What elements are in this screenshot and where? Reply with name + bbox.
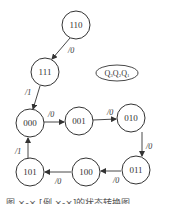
edge-001-010: /0 bbox=[93, 108, 116, 120]
edge-label: /0 bbox=[54, 177, 61, 186]
state-label: 011 bbox=[129, 165, 142, 175]
state-label: 100 bbox=[79, 167, 93, 177]
state-label: 101 bbox=[23, 167, 37, 177]
edge-label: /0 bbox=[106, 108, 113, 117]
state-label: 110 bbox=[69, 20, 83, 30]
figure-caption: 图 ×-× [例 ×-×]的状态转换图 bbox=[6, 197, 130, 204]
state-node-000: 000 bbox=[16, 109, 44, 137]
state-label: 111 bbox=[39, 67, 52, 77]
state-node-101: 101 bbox=[16, 158, 44, 186]
state-node-111: 111 bbox=[31, 58, 59, 86]
edge-011-100: /0 bbox=[101, 171, 121, 185]
edge-000-001: /0 bbox=[44, 110, 64, 122]
state-node-011: 011 bbox=[122, 156, 150, 184]
state-diagram: /0 /1 /0 /0 /0 /0 /0 /1 110 111 000 bbox=[0, 0, 173, 204]
edge-label: /1 bbox=[24, 88, 31, 97]
edge-label: /0 bbox=[67, 46, 74, 55]
legend-label: Q3Q2Q1 bbox=[105, 69, 130, 78]
state-node-010: 010 bbox=[117, 104, 145, 132]
state-label: 001 bbox=[72, 116, 86, 126]
state-node-110: 110 bbox=[62, 11, 90, 39]
state-node-001: 001 bbox=[65, 107, 93, 135]
edge-label: /1 bbox=[14, 147, 21, 156]
edge-110-111: /0 bbox=[52, 38, 74, 59]
state-label: 000 bbox=[23, 118, 37, 128]
edge-100-101: /0 bbox=[45, 172, 71, 186]
state-node-100: 100 bbox=[72, 158, 100, 186]
edge-label: /0 bbox=[145, 142, 152, 151]
edge-111-000: /1 bbox=[24, 86, 40, 109]
edge-101-000: /1 bbox=[14, 138, 28, 158]
edge-label: /0 bbox=[47, 110, 54, 119]
state-label: 010 bbox=[124, 113, 138, 123]
state-legend: Q3Q2Q1 bbox=[96, 65, 138, 81]
edge-label: /0 bbox=[112, 176, 119, 185]
edge-010-011: /0 bbox=[142, 132, 152, 156]
